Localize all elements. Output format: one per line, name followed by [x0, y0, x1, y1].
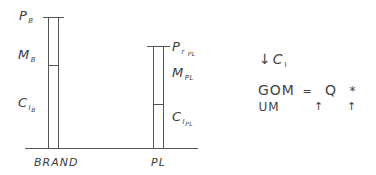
- label-sub: r: [181, 48, 184, 56]
- label-sub: B: [31, 56, 36, 64]
- label-sub: PL: [185, 74, 194, 82]
- pl-cost-label: CIPL: [172, 110, 193, 127]
- equation-term-um: UM: [258, 100, 280, 114]
- brand-bar-right-edge: [58, 17, 59, 148]
- brand-bar-divider: [48, 65, 59, 66]
- pl-bar-cap: [147, 46, 170, 47]
- label-sub: I: [285, 61, 288, 69]
- label-main: P: [172, 39, 180, 54]
- label-main: M: [18, 47, 30, 62]
- label-sub: B: [28, 17, 33, 25]
- brand-bar-left-edge: [48, 17, 49, 148]
- pl-margin-label: MPL: [172, 66, 194, 82]
- pl-price-label: PrPL: [172, 40, 196, 57]
- pl-category-label: PL: [151, 157, 166, 168]
- label-main: C: [273, 51, 284, 67]
- brand-margin-label: MB: [18, 48, 36, 64]
- equation-term-q: Q: [324, 82, 338, 98]
- label-sub2: PL: [185, 120, 193, 127]
- pl-bar-right-edge: [163, 46, 164, 148]
- equation-operator: *: [350, 84, 357, 98]
- label-sub2: B: [31, 106, 36, 113]
- pl-bar-divider: [153, 104, 164, 105]
- equation-lhs: GOM: [258, 82, 295, 98]
- equation-equals: =: [302, 85, 312, 98]
- label-main: M: [172, 65, 184, 80]
- label-sub2: PL: [188, 50, 196, 57]
- um-increase-arrow-icon: ↑: [347, 100, 356, 113]
- baseline: [25, 148, 198, 149]
- down-arrow-icon: ↓: [259, 51, 272, 67]
- label-main: C: [172, 109, 182, 124]
- cost-decrease-note: ↓CI: [259, 51, 288, 69]
- q-increase-arrow-icon: ↑: [314, 100, 323, 113]
- label-main: C: [18, 95, 28, 110]
- brand-category-label: BRAND: [34, 157, 78, 168]
- brand-bar-cap: [43, 17, 64, 18]
- brand-price-label: PB: [19, 9, 34, 25]
- label-main: P: [19, 8, 27, 23]
- pl-bar-left-edge: [153, 46, 154, 148]
- brand-cost-label: CIB: [18, 96, 36, 113]
